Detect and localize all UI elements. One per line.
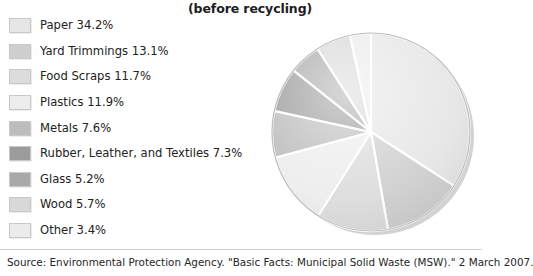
legend-item-label: Rubber, Leather, and Textiles 7.3%: [40, 147, 242, 160]
legend-item[interactable]: Rubber, Leather, and Textiles 7.3%: [9, 141, 255, 167]
legend-item[interactable]: Wood 5.7%: [9, 192, 255, 218]
legend-color-swatch: [9, 69, 31, 84]
legend-item-label: Glass 5.2%: [40, 173, 105, 186]
legend-item-label: Metals 7.6%: [40, 122, 111, 135]
legend-item[interactable]: Glass 5.2%: [9, 167, 255, 193]
legend-color-swatch: [9, 146, 31, 161]
pie-chart-area: [262, 22, 482, 242]
legend-color-swatch: [9, 121, 31, 136]
legend-item-label: Food Scraps 11.7%: [40, 70, 151, 83]
pie-chart-svg: [262, 22, 482, 242]
legend-color-swatch: [9, 44, 31, 59]
legend-color-swatch: [9, 197, 31, 212]
pie-slice-group: [272, 33, 470, 231]
legend-item-label: Yard Trimmings 13.1%: [40, 45, 169, 58]
legend-item[interactable]: Food Scraps 11.7%: [9, 64, 255, 90]
legend-item-label: Paper 34.2%: [40, 19, 113, 32]
legend-item[interactable]: Metals 7.6%: [9, 115, 255, 141]
legend-color-swatch: [9, 223, 31, 238]
legend-item[interactable]: Paper 34.2%: [9, 13, 255, 39]
legend-color-swatch: [9, 95, 31, 110]
legend-item-label: Other 3.4%: [40, 224, 106, 237]
source-note: Source: Environmental Protection Agency.…: [7, 256, 533, 269]
legend-item-label: Wood 5.7%: [40, 198, 105, 211]
legend-color-swatch: [9, 172, 31, 187]
legend-color-swatch: [9, 18, 31, 33]
legend-item[interactable]: Yard Trimmings 13.1%: [9, 39, 255, 65]
legend-item[interactable]: Other 3.4%: [9, 218, 255, 244]
chart-legend: Paper 34.2%Yard Trimmings 13.1%Food Scra…: [9, 13, 255, 243]
legend-item-label: Plastics 11.9%: [40, 96, 124, 109]
legend-item[interactable]: Plastics 11.9%: [9, 90, 255, 116]
footer-divider: [0, 249, 482, 250]
